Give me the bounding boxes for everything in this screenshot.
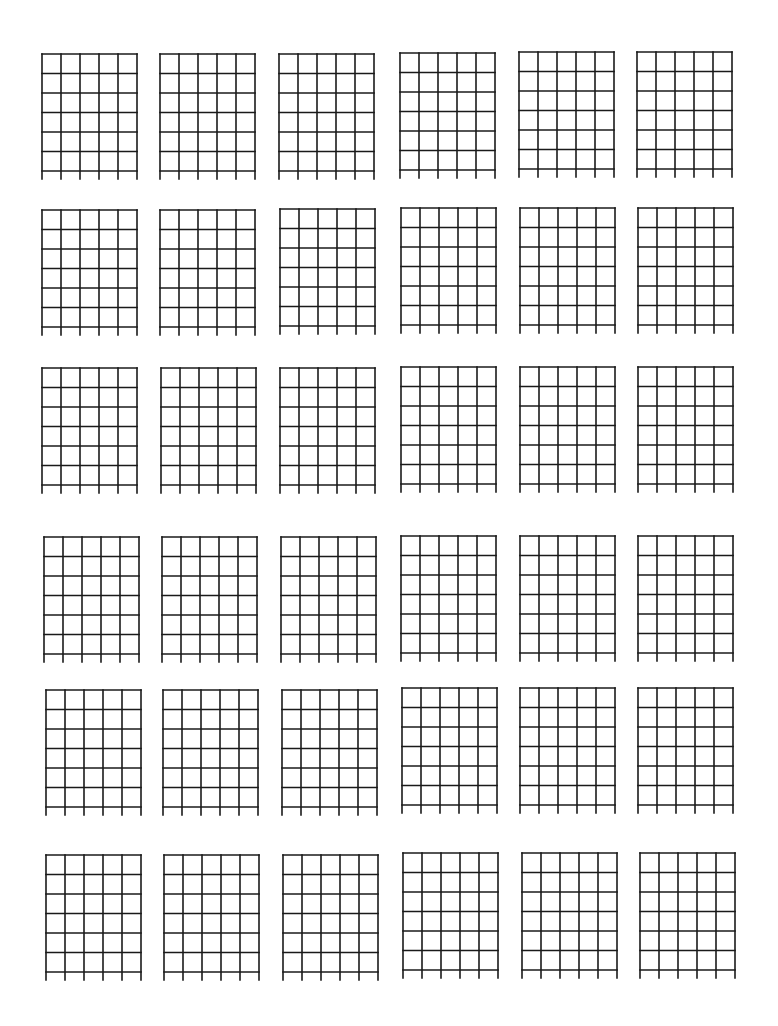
chord-diagram: [46, 690, 141, 815]
fretboard-grid: [160, 210, 255, 335]
fretboard-grid: [638, 688, 733, 813]
chord-diagram-sheet: [0, 0, 778, 1026]
chord-diagram: [401, 208, 496, 333]
fretboard-grid: [403, 853, 498, 978]
fretboard-grid: [282, 690, 377, 815]
chord-diagram: [402, 688, 497, 813]
chord-diagram: [400, 53, 495, 178]
fretboard-grid: [401, 208, 496, 333]
fretboard-grid: [281, 537, 376, 662]
chord-diagram: [280, 368, 375, 493]
fretboard-grid: [401, 367, 496, 492]
chord-diagram: [520, 367, 615, 492]
fretboard-grid: [280, 368, 375, 493]
fretboard-grid: [46, 690, 141, 815]
chord-diagram: [401, 536, 496, 661]
fretboard-grid: [46, 855, 141, 980]
fretboard-grid: [42, 368, 137, 493]
fretboard-grid: [520, 688, 615, 813]
chord-diagram: [42, 368, 137, 493]
chord-diagram: [161, 368, 256, 493]
chord-diagram: [401, 367, 496, 492]
fretboard-grid: [161, 368, 256, 493]
fretboard-grid: [519, 52, 614, 177]
chord-diagram: [520, 536, 615, 661]
fretboard-grid: [283, 855, 378, 980]
fretboard-grid: [401, 536, 496, 661]
chord-diagram: [280, 209, 375, 334]
fretboard-grid: [638, 208, 733, 333]
fretboard-grid: [400, 53, 495, 178]
chord-diagram: [640, 853, 735, 978]
chord-diagram: [42, 54, 137, 179]
chord-diagram: [279, 54, 374, 179]
chord-diagram: [519, 52, 614, 177]
chord-diagram: [403, 853, 498, 978]
chord-diagram: [638, 208, 733, 333]
chord-diagram: [283, 855, 378, 980]
fretboard-grid: [42, 210, 137, 335]
chord-diagram: [163, 690, 258, 815]
fretboard-grid: [522, 853, 617, 978]
fretboard-grid: [638, 367, 733, 492]
fretboard-grid: [164, 855, 259, 980]
chord-diagram: [520, 688, 615, 813]
fretboard-grid: [280, 209, 375, 334]
chord-diagram: [637, 52, 732, 177]
fretboard-grid: [402, 688, 497, 813]
fretboard-grid: [520, 536, 615, 661]
chord-diagram: [520, 208, 615, 333]
fretboard-grid: [42, 54, 137, 179]
chord-diagram: [160, 54, 255, 179]
fretboard-grid: [160, 54, 255, 179]
fretboard-grid: [279, 54, 374, 179]
fretboard-grid: [638, 536, 733, 661]
fretboard-grid: [637, 52, 732, 177]
chord-diagram: [282, 690, 377, 815]
fretboard-grid: [640, 853, 735, 978]
fretboard-grid: [162, 537, 257, 662]
chord-diagram: [164, 855, 259, 980]
fretboard-grid: [163, 690, 258, 815]
chord-diagram: [160, 210, 255, 335]
chord-diagram: [281, 537, 376, 662]
chord-diagram: [46, 855, 141, 980]
chord-diagram: [638, 688, 733, 813]
chord-diagram: [638, 536, 733, 661]
fretboard-grid: [520, 367, 615, 492]
chord-diagram: [44, 537, 139, 662]
chord-diagram: [638, 367, 733, 492]
fretboard-grid: [44, 537, 139, 662]
chord-diagram: [522, 853, 617, 978]
chord-diagram: [162, 537, 257, 662]
fretboard-grid: [520, 208, 615, 333]
chord-diagram: [42, 210, 137, 335]
